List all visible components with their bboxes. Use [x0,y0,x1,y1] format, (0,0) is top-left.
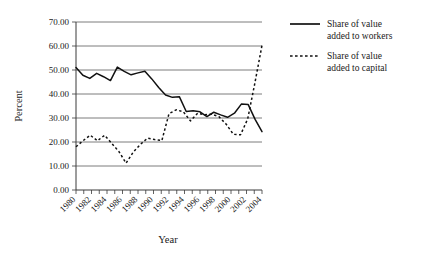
y-tick-label: 30.00 [49,113,70,123]
y-tick-label: 0.00 [53,185,69,195]
x-axis-title: Year [158,234,178,245]
y-tick-label: 20.00 [49,137,70,147]
chart-figure: 0.0010.0020.0030.0040.0050.0060.0070.00 … [0,0,432,260]
y-tick-label: 40.00 [49,89,70,99]
y-tick-label: 70.00 [49,17,70,27]
y-tick-label: 60.00 [49,41,70,51]
legend-label-capital-line2: added to capital [327,63,388,73]
y-axis-title: Percent [13,90,24,122]
legend-label-workers-line2: added to workers [327,31,393,41]
legend-label-workers-line1: Share of value [327,19,382,29]
legend-label-capital-line1: Share of value [327,51,382,61]
y-tick-label: 10.00 [49,161,70,171]
y-tick-label: 50.00 [49,65,70,75]
